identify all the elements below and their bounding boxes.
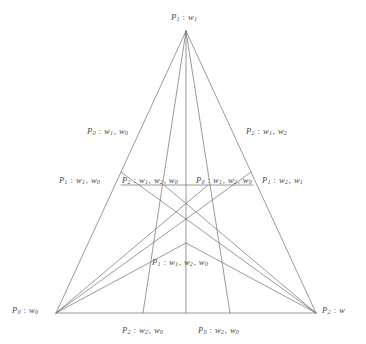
label-base-third-right: P0 : w2, w0 [198, 326, 239, 336]
label-apex: P1 : w1 [171, 13, 197, 23]
label-base-third-left: P2 : w2, w0 [122, 326, 163, 336]
cevian-apex-to-base-third-right [186, 31, 230, 313]
label-bottom-right-vertex: P2 : w [322, 306, 345, 316]
cevian-bottom-left-to-midline-cross-right [56, 185, 208, 313]
label-midline-inner-left: P2 : w1, w2, w0 [122, 176, 178, 186]
label-left-upper-edge: P0 : w1, w0 [87, 127, 128, 137]
label-bottom-left-vertex: P0 : w0 [12, 306, 38, 316]
label-centroid: P1 : w1, w2, w0 [152, 258, 208, 268]
centroid-to-bottom-left [56, 243, 186, 313]
cevian-bottom-left-to-right-edge-mid [56, 172, 251, 313]
label-right-upper-edge: P2 : w1, w2 [246, 127, 287, 137]
centroid-to-bottom-right [186, 243, 316, 313]
triangle-subdivision-diagram [0, 0, 366, 344]
cevian-bottom-right-to-midline-cross-left [164, 185, 316, 313]
label-midline-inner-right: P0 : w1, w2, w0 [196, 176, 252, 186]
label-midline-left-end: P1 : w1, w0 [59, 176, 100, 186]
cevian-bottom-right-to-left-edge-mid [121, 172, 316, 313]
cevian-apex-to-base-third-left [143, 31, 186, 313]
figure-container: P1 : w1P0 : w1, w0P2 : w1, w2P1 : w1, w0… [0, 0, 366, 344]
segment-layer [56, 31, 316, 313]
label-midline-right-end: P1 : w2, w1 [262, 176, 303, 186]
